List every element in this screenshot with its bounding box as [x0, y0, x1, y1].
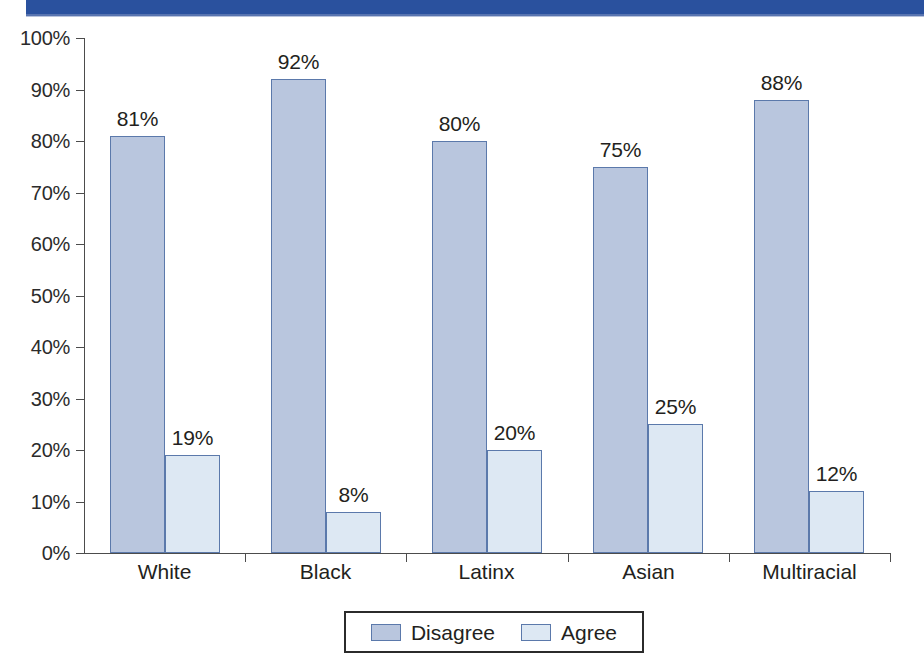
y-axis-tick-label: 10% [4, 492, 70, 512]
bar-value-label: 25% [630, 396, 721, 417]
x-axis-label-latinx: Latinx [406, 560, 567, 584]
y-axis-tick-label: 50% [4, 286, 70, 306]
y-axis-tick [76, 399, 85, 400]
y-axis-tick-label: 90% [4, 80, 70, 100]
x-axis-label-black: Black [245, 560, 406, 584]
bar-value-label: 12% [791, 463, 882, 484]
y-axis-tick [76, 450, 85, 451]
legend-swatch-agree [521, 624, 551, 641]
bar-value-label: 8% [308, 484, 399, 505]
legend-item-agree[interactable]: Agree [521, 622, 617, 643]
y-axis-tick [76, 347, 85, 348]
bar-asian-disagree[interactable] [593, 167, 648, 553]
bar-asian-agree[interactable] [648, 424, 703, 553]
y-axis-tick-label: 20% [4, 440, 70, 460]
chart-page: 100%90%80%70%60%50%40%30%20%10%0% 81%19%… [0, 0, 924, 671]
bar-value-label: 20% [469, 422, 560, 443]
bar-black-agree[interactable] [326, 512, 381, 553]
y-axis-tick [76, 244, 85, 245]
bar-value-label: 80% [414, 113, 505, 134]
legend-item-disagree[interactable]: Disagree [371, 622, 495, 643]
bar-multiracial-agree[interactable] [809, 491, 864, 553]
y-axis-tick-label: 100% [4, 28, 70, 48]
y-axis-tick-label: 80% [4, 131, 70, 151]
bar-latinx-disagree[interactable] [432, 141, 487, 553]
y-axis-tick-label: 30% [4, 389, 70, 409]
bar-value-label: 92% [253, 51, 344, 72]
legend-swatch-disagree [371, 624, 401, 641]
y-axis-tick [76, 193, 85, 194]
y-axis-tick-label: 70% [4, 183, 70, 203]
bar-latinx-agree[interactable] [487, 450, 542, 553]
x-axis-label-multiracial: Multiracial [729, 560, 890, 584]
x-axis-end-tick [890, 553, 891, 562]
bar-chart: 100%90%80%70%60%50%40%30%20%10%0% 81%19%… [0, 0, 924, 671]
y-axis-zero-tick [76, 553, 85, 554]
legend-label-disagree: Disagree [411, 622, 495, 643]
y-axis-tick [76, 141, 85, 142]
bar-value-label: 88% [736, 72, 827, 93]
bar-white-disagree[interactable] [110, 136, 165, 553]
bar-black-disagree[interactable] [271, 79, 326, 553]
bar-value-label: 75% [575, 139, 666, 160]
x-axis-line [84, 553, 891, 554]
y-axis-tick [76, 296, 85, 297]
y-axis-top-tick [76, 38, 85, 39]
chart-legend: Disagree Agree [344, 611, 644, 653]
bar-value-label: 81% [92, 108, 183, 129]
legend-label-agree: Agree [561, 622, 617, 643]
bar-multiracial-disagree[interactable] [754, 100, 809, 553]
x-axis-label-asian: Asian [568, 560, 729, 584]
y-axis-tick [76, 502, 85, 503]
y-axis-tick-label: 40% [4, 337, 70, 357]
y-axis-tick [76, 90, 85, 91]
y-axis-tick-label: 60% [4, 234, 70, 254]
x-axis-label-white: White [84, 560, 245, 584]
bar-white-agree[interactable] [165, 455, 220, 553]
y-axis-tick-label: 0% [4, 543, 70, 563]
bar-value-label: 19% [147, 427, 238, 448]
